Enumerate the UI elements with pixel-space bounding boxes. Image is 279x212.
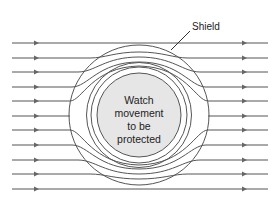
core-label-line: Watch [124,94,154,106]
magnetic-shield-diagram: Shield Watch movement to be protected [0,0,279,212]
core-label-line: movement [114,107,163,119]
right-arrows [242,41,247,192]
core-label-line: to be [127,120,151,132]
left-arrows [34,41,39,192]
shield-label: Shield [192,21,220,32]
diagram-canvas: Shield Watch movement to be protected [0,0,279,212]
field-line [12,57,268,72]
core-label-line: protected [117,133,161,145]
shield-leader-line [171,31,190,50]
field-line [12,174,268,179]
